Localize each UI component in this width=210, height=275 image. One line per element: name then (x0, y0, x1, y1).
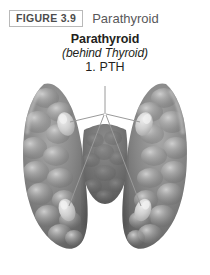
thyroid-gland-svg (0, 78, 210, 268)
figure-header-title: Parathyroid (92, 12, 158, 25)
caption-block: Parathyroid (behind Thyroid) 1. PTH (0, 33, 210, 75)
thyroid-left-lobe (21, 83, 88, 248)
thyroid-isthmus (82, 124, 128, 204)
caption-subtitle: (behind Thyroid) (0, 46, 210, 60)
figure-number-box: FIGURE 3.9 (9, 10, 83, 27)
figure-header: FIGURE 3.9 Parathyroid (0, 7, 210, 29)
figure-number-label: FIGURE 3.9 (16, 13, 76, 24)
thyroid-illustration (0, 78, 210, 268)
hormone-label-pth: 1. PTH (0, 60, 210, 75)
thyroid-right-lobe (122, 83, 189, 248)
caption-title: Parathyroid (0, 33, 210, 46)
